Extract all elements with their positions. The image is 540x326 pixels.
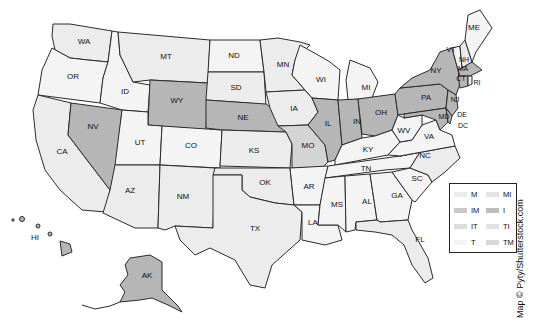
legend-item: MI <box>486 190 511 199</box>
label-tn: TN <box>361 164 372 173</box>
legend-label: M <box>471 190 477 199</box>
label-la: LA <box>308 218 318 227</box>
label-al: AL <box>362 197 372 206</box>
legend-label: MI <box>503 190 511 199</box>
hawaii-island <box>20 217 25 222</box>
label-fl: FL <box>415 235 425 244</box>
label-dc: DC <box>458 122 468 129</box>
label-ar: AR <box>303 182 314 191</box>
label-sd: SD <box>230 83 241 92</box>
legend-item: TM <box>486 238 514 247</box>
legend-label: IT <box>471 222 478 231</box>
label-ct: CT <box>456 75 466 82</box>
label-ne: NE <box>237 113 248 122</box>
legend-swatch <box>486 192 499 197</box>
label-md: MD <box>439 113 450 120</box>
label-nj: NJ <box>451 96 460 103</box>
legend-swatch <box>486 208 499 213</box>
label-vt: VT <box>447 46 457 53</box>
label-ks: KS <box>249 146 260 155</box>
label-oh: OH <box>375 108 387 117</box>
label-me: ME <box>468 23 480 32</box>
state-hi <box>60 241 72 256</box>
state-ri <box>468 76 472 86</box>
legend-label: I <box>503 206 505 215</box>
state-me <box>465 10 492 62</box>
legend-swatch <box>486 224 499 229</box>
map-legend: M MI IM I IT TI T TM <box>449 183 517 253</box>
legend-label: T <box>471 238 476 247</box>
label-nm: NM <box>177 192 190 201</box>
label-ia: IA <box>290 104 298 113</box>
label-mo: MO <box>302 141 315 150</box>
legend-label: IM <box>471 206 479 215</box>
label-pa: PA <box>421 93 432 102</box>
label-wi: WI <box>316 75 326 84</box>
label-ny: NY <box>430 66 442 75</box>
label-va: VA <box>424 132 435 141</box>
state-ak <box>120 255 182 312</box>
legend-swatch <box>454 224 467 229</box>
label-nd: ND <box>228 51 240 60</box>
label-nh: NH <box>459 56 469 63</box>
label-ky: KY <box>363 145 374 154</box>
label-tx: TX <box>250 224 261 233</box>
state-fl <box>356 220 433 283</box>
label-mt: MT <box>160 52 172 61</box>
legend-swatch <box>454 192 467 197</box>
legend-item: I <box>486 206 505 215</box>
label-ri: RI <box>474 79 481 86</box>
label-co: CO <box>185 141 197 150</box>
label-wy: WY <box>171 96 185 105</box>
label-ma: MA <box>458 65 469 72</box>
label-mn: MN <box>277 60 290 69</box>
label-il: IL <box>325 119 332 128</box>
legend-item: T <box>454 238 476 247</box>
label-ok: OK <box>259 178 271 187</box>
label-az: AZ <box>125 186 135 195</box>
alaska-aleutians <box>82 302 120 309</box>
label-id: ID <box>121 87 129 96</box>
label-sc: SC <box>411 174 422 183</box>
legend-label: TM <box>503 238 514 247</box>
label-ak: AK <box>142 271 153 280</box>
label-in: IN <box>353 117 361 126</box>
image-credit: Map © Pyty/Shutterstock.com <box>515 199 525 318</box>
label-or: OR <box>67 72 79 81</box>
label-ca: CA <box>56 147 68 156</box>
hawaii-island <box>12 219 14 221</box>
legend-swatch <box>454 208 467 213</box>
legend-item: IM <box>454 206 479 215</box>
legend-item: M <box>454 190 477 199</box>
legend-item: IT <box>454 222 478 231</box>
label-wv: WV <box>398 126 412 135</box>
legend-swatch <box>486 240 499 245</box>
legend-swatch <box>454 240 467 245</box>
us-states-map: WA OR CA NV ID MT WY UT AZ CO NM ND SD N… <box>0 0 540 326</box>
label-ga: GA <box>391 191 403 200</box>
legend-label: TI <box>503 222 510 231</box>
label-de: DE <box>457 111 467 118</box>
legend-item: TI <box>486 222 510 231</box>
label-wa: WA <box>78 37 91 46</box>
hawaii-island <box>48 232 52 236</box>
label-hi: HI <box>31 233 39 242</box>
hawaii-island <box>36 224 40 228</box>
label-ut: UT <box>135 138 146 147</box>
label-mi: MI <box>362 83 371 92</box>
label-nv: NV <box>87 122 99 131</box>
state-mi <box>346 60 378 100</box>
label-nc: NC <box>419 151 431 160</box>
label-ms: MS <box>331 200 343 209</box>
